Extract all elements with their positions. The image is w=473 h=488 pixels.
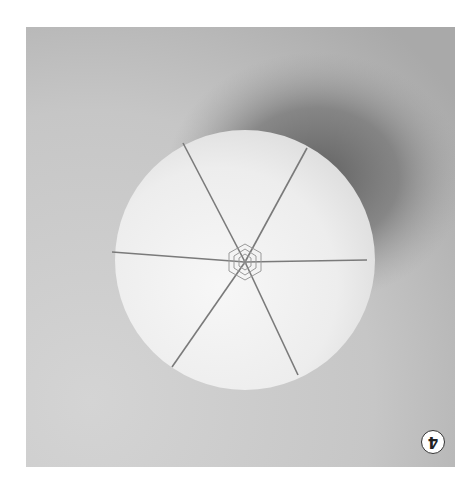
temari-ball-illustration <box>26 27 455 467</box>
step-number-badge: 4 <box>421 430 445 454</box>
photo-temari-ball <box>26 27 455 467</box>
clipped-caption-text <box>26 0 456 4</box>
